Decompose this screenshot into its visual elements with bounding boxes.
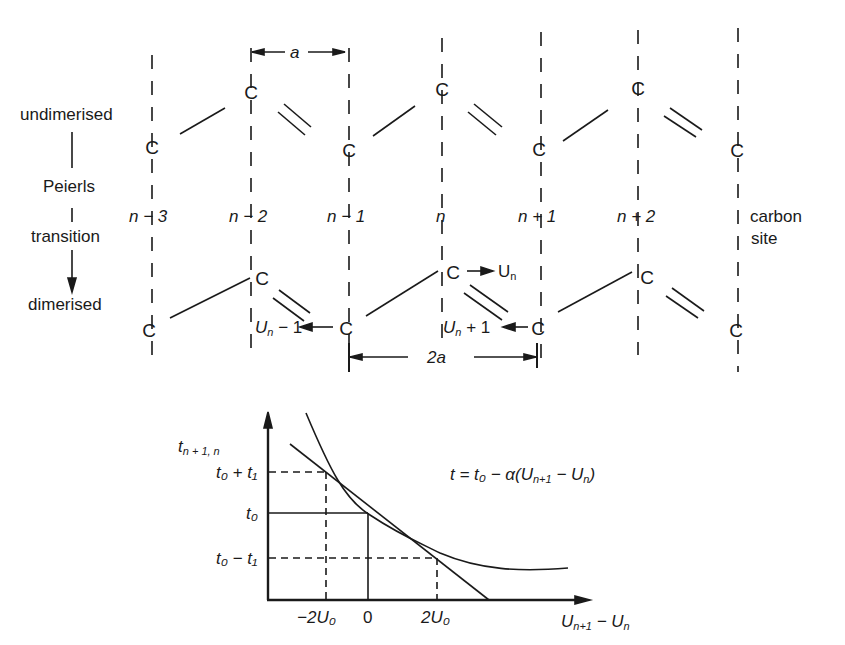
site-label-n-2: n − 2 xyxy=(229,208,267,225)
label-undimerised: undimerised xyxy=(20,106,113,123)
x-tick-minus-2u0: −2U₀ xyxy=(297,609,336,626)
atom-undimerised-n+1: C xyxy=(532,140,546,159)
displacement-un-plus-1: Un + 1 xyxy=(443,319,490,338)
y-axis-label: tn + 1, n xyxy=(178,438,220,457)
x-tick-2u0: 2U₀ xyxy=(421,609,450,626)
atom-undimerised-n-1: C xyxy=(342,141,356,160)
atom-dimerised-n+2: C xyxy=(640,268,654,287)
atom-dimerised-n: C xyxy=(446,263,460,282)
atom-dimerised-end: C xyxy=(729,321,743,340)
x-tick-0: 0 xyxy=(363,609,372,626)
spacing-a-label: a xyxy=(290,44,299,61)
x-axis-label: Un+1 − Un xyxy=(561,613,630,632)
label-peierls: Peierls xyxy=(43,178,95,195)
atom-undimerised-end: C xyxy=(730,141,744,160)
site-label: site xyxy=(751,230,777,247)
atom-undimerised-n-2: C xyxy=(244,83,258,102)
atom-undimerised-n: C xyxy=(435,80,449,99)
hopping-curve xyxy=(306,413,568,570)
atom-dimerised-n-2: C xyxy=(255,269,269,288)
atom-undimerised-n+2: C xyxy=(631,79,645,98)
y-tick-t0: t₀ xyxy=(246,505,258,522)
site-label-n: n xyxy=(436,208,445,225)
label-dimerised: dimerised xyxy=(28,296,102,313)
equation-label: t = t₀ − α(Un+1 − Un) xyxy=(450,466,595,485)
site-label-n-1: n − 1 xyxy=(327,208,365,225)
displacement-un: Un xyxy=(498,263,516,282)
spacing-2a-label: 2a xyxy=(427,349,446,366)
diagram-canvas xyxy=(0,0,845,645)
site-label-n+2: n + 2 xyxy=(617,208,655,225)
site-label-n-3: n − 3 xyxy=(129,208,167,225)
carbon-label: carbon xyxy=(750,208,802,225)
atom-undimerised-n-3: C xyxy=(145,138,159,157)
label-transition: transition xyxy=(31,228,100,245)
atom-dimerised-n-3: C xyxy=(142,321,156,340)
atom-dimerised-n+1: C xyxy=(531,319,545,338)
site-label-n+1: n + 1 xyxy=(518,208,556,225)
y-tick-t0-plus-t1: t₀ + t₁ xyxy=(216,464,257,481)
atom-dimerised-n-1: C xyxy=(339,319,353,338)
y-tick-t0-minus-t1: t₀ − t₁ xyxy=(216,550,257,567)
displacement-un-minus-1: Un − 1 xyxy=(255,319,302,338)
